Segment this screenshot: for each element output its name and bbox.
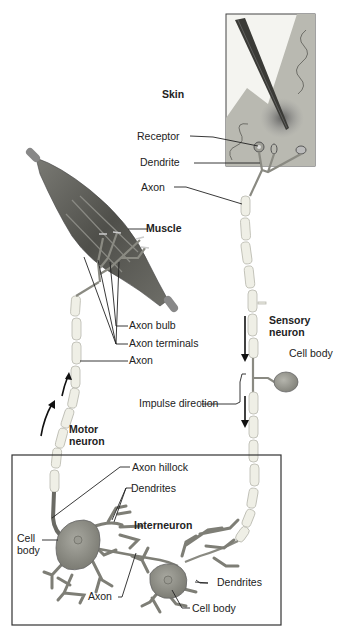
label-dendrites-lower: Dendrites [217,576,262,588]
label-motor-neuron-1: Motor [69,423,98,435]
label-interneuron: Interneuron [134,519,192,531]
neuron-diagram: Skin Receptor Dendrite Axon Muscle Axon … [0,0,346,637]
label-impulse-direction: Impulse direction [139,397,219,409]
label-cell-body-left-1: Cell [17,532,35,544]
label-axon-terminals: Axon terminals [129,337,198,349]
label-cell-body-sensory: Cell body [289,347,334,359]
skin-panel [226,14,315,166]
label-axon-inter: Axon [88,590,112,602]
label-axon-bulb: Axon bulb [129,319,176,331]
label-axon-motor: Axon [129,354,153,366]
label-cell-body-lower: Cell body [192,602,237,614]
label-motor-neuron-2: neuron [69,435,105,447]
label-cell-body-left-2: body [17,544,41,556]
label-muscle: Muscle [146,222,182,234]
label-sensory-neuron-1: Sensory [269,314,311,326]
label-sensory-neuron-2: neuron [269,326,305,338]
label-dendrites-upper: Dendrites [131,482,176,494]
label-receptor: Receptor [137,130,180,142]
sensory-cell-body [274,372,298,392]
label-dendrite: Dendrite [140,156,180,168]
label-axon-sensory: Axon [141,181,165,193]
label-skin: Skin [162,88,184,100]
label-axon-hillock: Axon hillock [132,461,189,473]
